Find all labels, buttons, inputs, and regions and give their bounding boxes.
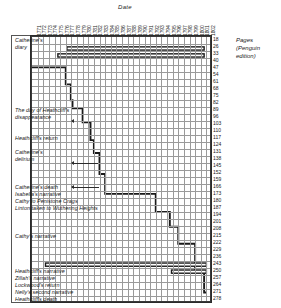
y-tick-label: 187 xyxy=(213,205,221,210)
event-annotation: Nelly's second narrative xyxy=(15,289,73,295)
grid-line-horizontal xyxy=(32,79,210,80)
y-tick-label: 257 xyxy=(213,275,221,280)
frame-bottom-rule xyxy=(11,302,212,303)
annotation-arrowhead xyxy=(71,185,74,189)
y-tick-label: 264 xyxy=(213,282,221,287)
y-tick-label: 54 xyxy=(213,72,219,77)
y-tick-label: 201 xyxy=(213,219,221,224)
grid-line-horizontal xyxy=(32,86,210,87)
y-tick-label: 103 xyxy=(213,121,221,126)
y-axis-caption: Pages(Penguinedition) xyxy=(236,36,280,60)
y-tick-label: 229 xyxy=(213,247,221,252)
y-caption-line: edition) xyxy=(236,52,280,60)
grid-line-horizontal xyxy=(32,93,210,94)
y-caption-line: (Penguin xyxy=(236,44,280,52)
annotation-leader-line xyxy=(72,163,98,164)
y-tick-label: 278 xyxy=(213,296,221,301)
y-tick-label: 215 xyxy=(213,233,221,238)
event-annotation: The day of Heathcliff's xyxy=(15,107,69,113)
y-tick-label: 243 xyxy=(213,261,221,266)
y-axis-tick-labels: 1826334047546168758289961031101171241311… xyxy=(213,33,233,305)
y-tick-label: 145 xyxy=(213,163,221,168)
y-tick-label: 75 xyxy=(213,93,219,98)
event-annotation: Isabella's narrative xyxy=(15,191,61,197)
grid-line-horizontal xyxy=(32,240,210,241)
y-tick-label: 250 xyxy=(213,268,221,273)
event-annotation: Lockwood's return xyxy=(15,282,59,288)
event-annotation: Catherine's xyxy=(15,149,43,155)
grid-line-horizontal xyxy=(32,163,210,164)
event-annotation: Linton taken to Wuthering Heights xyxy=(15,205,98,211)
frame-left-rule xyxy=(11,35,12,303)
y-tick-label: 124 xyxy=(213,142,221,147)
grid-line-horizontal xyxy=(32,254,210,255)
event-annotation: Cathy to Penistone Crags xyxy=(15,198,78,204)
annotation-leader-line xyxy=(72,187,99,188)
y-tick-label: 236 xyxy=(213,254,221,259)
grid-line-horizontal xyxy=(32,226,210,227)
y-tick-label: 33 xyxy=(213,51,219,56)
grid-line-horizontal xyxy=(32,233,210,234)
y-tick-label: 117 xyxy=(213,135,221,140)
event-annotation: diary xyxy=(15,44,27,50)
annotation-arrowhead xyxy=(71,161,74,165)
y-tick-label: 18 xyxy=(213,37,219,42)
grid-line-horizontal xyxy=(32,51,210,52)
grid-line-horizontal xyxy=(32,121,210,122)
y-tick-label: 110 xyxy=(213,128,221,133)
grid-line-horizontal xyxy=(32,219,210,220)
y-tick-label: 82 xyxy=(213,100,219,105)
event-annotation: Catherine's death xyxy=(15,184,58,190)
event-annotation: delirium xyxy=(15,156,34,162)
y-tick-label: 173 xyxy=(213,191,221,196)
y-caption-line: Pages xyxy=(236,36,280,44)
x-axis-title: Date xyxy=(118,4,132,10)
event-annotation: Catherine's xyxy=(15,37,43,43)
event-annotation: Zillah's narrative xyxy=(15,275,55,281)
y-tick-label: 61 xyxy=(213,79,219,84)
y-tick-label: 159 xyxy=(213,177,221,182)
x-axis-tick-labels: 1771177217731774177517761777177817791780… xyxy=(31,13,211,36)
event-annotation: disappearance xyxy=(15,114,51,120)
grid-line-horizontal xyxy=(32,184,210,185)
y-tick-label: 47 xyxy=(213,65,219,70)
y-tick-label: 131 xyxy=(213,149,221,154)
y-tick-label: 271 xyxy=(213,289,221,294)
event-annotation: Heathcliff's return xyxy=(15,135,58,141)
event-annotation: Heathcliff's death xyxy=(15,296,57,302)
grid-line-horizontal xyxy=(32,65,210,66)
grid-line-horizontal xyxy=(32,261,210,262)
y-tick-label: 68 xyxy=(213,86,219,91)
y-tick-label: 96 xyxy=(213,114,219,119)
grid-line-horizontal xyxy=(32,128,210,129)
grid-line-horizontal xyxy=(32,142,210,143)
event-annotation: Cathy's narrative xyxy=(15,233,56,239)
grid-line-horizontal xyxy=(32,170,210,171)
y-tick-label: 26 xyxy=(213,44,219,49)
grid-line-horizontal xyxy=(32,247,210,248)
grid-line-horizontal xyxy=(32,58,210,59)
y-tick-label: 40 xyxy=(213,58,219,63)
grid-line-horizontal xyxy=(32,149,210,150)
y-tick-label: 222 xyxy=(213,240,221,245)
grid-line-horizontal xyxy=(32,212,210,213)
y-tick-label: 166 xyxy=(213,184,221,189)
y-tick-label: 194 xyxy=(213,212,221,217)
grid-line-horizontal xyxy=(32,156,210,157)
grid-line-horizontal xyxy=(32,114,210,115)
y-tick-label: 208 xyxy=(213,226,221,231)
y-tick-label: 180 xyxy=(213,198,221,203)
y-tick-label: 138 xyxy=(213,156,221,161)
event-annotation: Heathcliff's narrative xyxy=(15,268,65,274)
grid-line-horizontal xyxy=(32,72,210,73)
grid-lines xyxy=(32,37,210,301)
grid-line-horizontal xyxy=(32,177,210,178)
grid-line-horizontal xyxy=(32,275,210,276)
annotation-arrowhead xyxy=(71,119,74,123)
grid-line-horizontal xyxy=(32,100,210,101)
grid-line-horizontal xyxy=(32,296,210,297)
plot-area xyxy=(31,36,211,302)
grid-line-horizontal xyxy=(32,44,210,45)
chart-root: Date 17711772177317741775177617771778177… xyxy=(0,0,281,308)
y-tick-label: 89 xyxy=(213,107,219,112)
